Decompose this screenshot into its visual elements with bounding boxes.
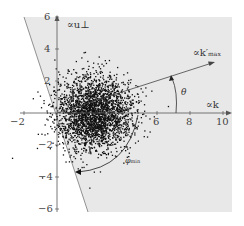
x-tick-label: −2 [10,117,25,127]
y-tick-label: −4 [38,172,53,182]
y-tick-label: 4 [44,44,50,54]
y-tick-label: −6 [38,204,53,214]
k-max-label: ∝k′max [193,48,221,58]
phi-label-sub: min [131,158,141,164]
x-tick-label: 8 [186,117,192,127]
x-tick-label: 10 [216,117,229,127]
phi-min-label: φmin [125,157,140,165]
figure-canvas [0,0,244,226]
x-tick-label: 6 [153,117,159,127]
x-axis-label: ∝k [206,100,219,110]
y-tick-label: 2 [44,76,50,86]
y-tick-label: 6 [44,12,50,22]
y-axis-label: ∝u⊥ [67,20,90,30]
k-max-label-sub: max [208,50,221,57]
theta-label: θ [181,88,186,97]
y-tick-label: −2 [38,140,53,150]
k-max-label-main: ∝k′ [193,47,208,58]
